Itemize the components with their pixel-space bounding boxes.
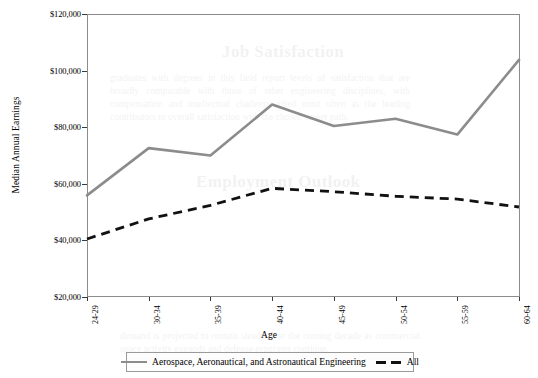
- legend-label-all: All: [407, 357, 419, 367]
- series-line-all: [87, 188, 519, 239]
- y-axis-tick-label: $100,000: [23, 66, 81, 76]
- legend-item-aerospace[interactable]: Aerospace, Aeronautical, and Astronautic…: [121, 357, 366, 367]
- x-axis-tick-label: 60-64: [523, 305, 532, 324]
- y-axis-title: Median Annual Earnings: [11, 65, 21, 225]
- series-line-aerospace: [87, 60, 519, 196]
- x-axis-tick-mark: [149, 297, 150, 301]
- x-axis-tick-label: 35-39: [214, 305, 223, 324]
- x-axis-tick-mark: [272, 297, 273, 301]
- plot-series-layer: [87, 14, 520, 297]
- x-axis-tick-mark: [87, 297, 88, 301]
- legend-item-all[interactable]: All: [376, 357, 419, 367]
- x-axis-tick-label: 45-49: [338, 305, 347, 324]
- x-axis-tick-mark: [210, 297, 211, 301]
- x-axis-tick-label: 50-54: [400, 305, 409, 324]
- legend-swatch-dashed-icon: [376, 361, 402, 364]
- y-axis-tick-label: $40,000: [23, 235, 81, 245]
- legend-label-aerospace: Aerospace, Aeronautical, and Astronautic…: [152, 357, 366, 367]
- chart-legend: Aerospace, Aeronautical, and Astronautic…: [126, 352, 414, 372]
- x-axis-tick-label: 40-44: [276, 305, 285, 324]
- y-axis-tick-label: $120,000: [23, 9, 81, 19]
- y-axis-tick-label: $20,000: [23, 292, 81, 302]
- x-axis-tick-mark: [396, 297, 397, 301]
- x-axis-tick-mark: [334, 297, 335, 301]
- x-axis-tick-label: 55-59: [461, 305, 470, 324]
- y-axis-tick-label: $80,000: [23, 122, 81, 132]
- x-axis-tick-mark: [457, 297, 458, 301]
- y-axis-tick-label: $60,000: [23, 179, 81, 189]
- earnings-by-age-line-chart: Median Annual Earnings $20,000$40,000$60…: [0, 0, 538, 378]
- legend-swatch-solid-icon: [121, 361, 147, 364]
- x-axis-tick-mark: [519, 297, 520, 301]
- x-axis-tick-label: 30-34: [153, 305, 162, 324]
- x-axis-title: Age: [0, 330, 538, 340]
- x-axis-tick-label: 24-29: [91, 305, 100, 324]
